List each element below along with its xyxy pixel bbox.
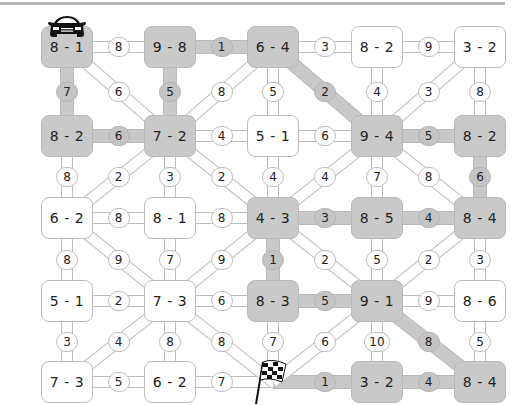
edge-cost-badge: 8 (56, 250, 78, 270)
edge-cost-badge: 2 (211, 167, 233, 187)
edge-cost-badge: 2 (108, 291, 130, 311)
edge-cost-badge: 1 (211, 37, 233, 57)
edge-cost-badge: 1 (314, 372, 336, 392)
edge-cost-badge: 10 (364, 332, 390, 352)
edge-cost-badge: 5 (469, 332, 491, 352)
edge-cost-badge: 5 (366, 250, 388, 270)
edge-cost-badge: 7 (366, 167, 388, 187)
route-node[interactable]: 7 - 3 (144, 280, 196, 322)
edge-cost-badge: 3 (469, 250, 491, 270)
route-node[interactable]: 8 - 2 (41, 115, 93, 157)
edge-cost-badge: 4 (262, 167, 284, 187)
edge-cost-badge: 7 (262, 332, 284, 352)
edge-cost-badge: 9 (418, 37, 440, 57)
edge-cost-badge: 9 (211, 250, 233, 270)
edge-cost-badge: 8 (108, 37, 130, 57)
edge-cost-badge: 7 (211, 372, 233, 392)
edge-cost-badge: 8 (56, 167, 78, 187)
route-node[interactable]: 6 - 2 (41, 197, 93, 239)
edge-cost-badge: 2 (418, 250, 440, 270)
edge-cost-badge: 2 (108, 167, 130, 187)
route-node[interactable]: 8 - 2 (351, 26, 403, 68)
route-node[interactable]: 7 - 3 (41, 361, 93, 403)
edge-cost-badge: 7 (56, 82, 78, 102)
route-node[interactable]: 5 - 1 (247, 115, 299, 157)
edge-cost-badge: 4 (211, 126, 233, 146)
edge-cost-badge: 6 (314, 126, 336, 146)
edge-cost-badge: 5 (314, 291, 336, 311)
route-node[interactable]: 9 - 8 (144, 26, 196, 68)
route-node[interactable]: 9 - 1 (351, 280, 403, 322)
edge-cost-badge: 4 (418, 208, 440, 228)
checkered-flag-icon (253, 358, 287, 405)
route-node[interactable]: 6 - 2 (144, 361, 196, 403)
edge-cost-badge: 4 (108, 332, 130, 352)
edge-cost-badge: 2 (314, 82, 336, 102)
route-node[interactable]: 8 - 6 (454, 280, 506, 322)
route-node[interactable]: 8 - 4 (454, 197, 506, 239)
edge-cost-badge: 5 (262, 82, 284, 102)
edge-cost-badge: 7 (159, 250, 181, 270)
edge-cost-badge: 4 (366, 82, 388, 102)
edge-cost-badge: 6 (314, 332, 336, 352)
edge-cost-badge: 8 (211, 332, 233, 352)
route-node[interactable]: 3 - 2 (351, 361, 403, 403)
route-node[interactable]: 8 - 2 (454, 115, 506, 157)
edge-cost-badge: 6 (211, 291, 233, 311)
route-node[interactable]: 8 - 1 (144, 197, 196, 239)
route-node[interactable]: 8 - 4 (454, 361, 506, 403)
edge-cost-badge: 8 (418, 332, 440, 352)
edge-cost-badge: 5 (418, 126, 440, 146)
edge-cost-badge: 5 (159, 82, 181, 102)
edge-cost-badge: 3 (56, 332, 78, 352)
edge-cost-badge: 3 (159, 167, 181, 187)
route-node[interactable]: 8 - 5 (351, 197, 403, 239)
edge-cost-badge: 1 (262, 250, 284, 270)
route-node[interactable]: 9 - 4 (351, 115, 403, 157)
edge-cost-badge: 8 (159, 332, 181, 352)
route-node[interactable]: 3 - 2 (454, 26, 506, 68)
edge-cost-badge: 8 (211, 82, 233, 102)
edge-cost-badge: 9 (108, 250, 130, 270)
edge-cost-badge: 8 (108, 208, 130, 228)
edge-cost-badge: 6 (108, 82, 130, 102)
edge-cost-badge: 4 (418, 372, 440, 392)
edge-cost-badge: 4 (314, 167, 336, 187)
edge-cost-badge: 6 (469, 167, 491, 187)
edge-cost-badge: 6 (108, 126, 130, 146)
edge-cost-badge: 8 (418, 167, 440, 187)
edge-cost-badge: 9 (418, 291, 440, 311)
edge-cost-badge: 3 (418, 82, 440, 102)
route-node[interactable]: 5 - 1 (41, 280, 93, 322)
route-node[interactable]: 8 - 3 (247, 280, 299, 322)
edge-cost-badge: 3 (314, 208, 336, 228)
route-node[interactable]: 7 - 2 (144, 115, 196, 157)
edge-cost-badge: 5 (108, 372, 130, 392)
edge-cost-badge: 8 (469, 82, 491, 102)
edge-cost-badge: 3 (314, 37, 336, 57)
race-car-icon (46, 14, 88, 38)
edge-cost-badge: 2 (314, 250, 336, 270)
route-node[interactable]: 4 - 3 (247, 197, 299, 239)
route-node[interactable]: 6 - 4 (247, 26, 299, 68)
edge-cost-badge: 8 (211, 208, 233, 228)
